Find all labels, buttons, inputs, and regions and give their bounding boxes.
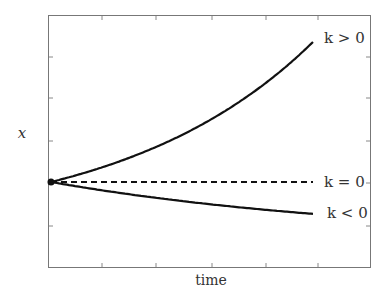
label-k-zero: k = 0 (324, 173, 365, 191)
initial-point-marker (48, 179, 55, 186)
growth-chart: k > 0 k = 0 k < 0 time x (0, 0, 392, 293)
x-axis-label: time (195, 272, 227, 288)
curve-k-negative (51, 182, 313, 214)
plot-frame (49, 16, 371, 268)
label-k-negative: k < 0 (327, 204, 368, 222)
curve-k-positive (51, 42, 313, 182)
axis-ticks (49, 16, 370, 267)
label-k-positive: k > 0 (324, 29, 365, 47)
y-axis-label: x (18, 124, 27, 142)
